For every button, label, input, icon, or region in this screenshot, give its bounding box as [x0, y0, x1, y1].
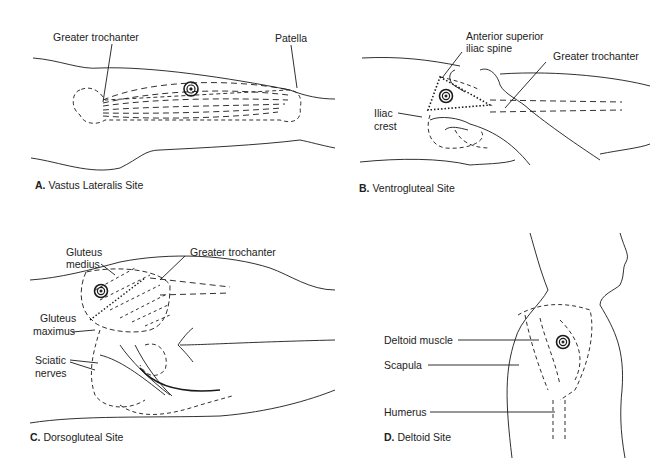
caption-c: C. Dorsogluteal Site [30, 431, 123, 443]
caption-b: B. Ventrogluteal Site [359, 182, 455, 194]
label-iliac: Iliac [374, 107, 393, 119]
label-greater-trochanter-b: Greater trochanter [553, 50, 639, 62]
label-anterior-superior: Anterior superior [466, 30, 544, 42]
caption-d: D. Deltoid Site [384, 431, 451, 443]
caption-a: A. Vastus Lateralis Site [35, 179, 143, 191]
label-sciatic: Sciatic [35, 354, 66, 366]
panel-d-drawing [428, 233, 627, 458]
label-deltoid-muscle: Deltoid muscle [384, 334, 453, 346]
panel-b-drawing [360, 52, 650, 165]
label-nerves: nerves [35, 367, 67, 379]
label-patella: Patella [275, 32, 307, 44]
label-iliac-spine: iliac spine [466, 42, 512, 54]
anatomy-illustration [0, 0, 670, 458]
label-crest: crest [374, 120, 397, 132]
label-greater-trochanter-c: Greater trochanter [190, 246, 276, 258]
label-gluteus-medius-1: Gluteus [66, 246, 102, 258]
label-scapula: Scapula [384, 359, 422, 371]
panel-c-drawing [30, 256, 335, 423]
label-humerus: Humerus [384, 406, 427, 418]
label-gluteus-maximus-2: maximus [33, 325, 75, 337]
label-gluteus-medius-2: medius [66, 258, 100, 270]
label-greater-trochanter-a: Greater trochanter [53, 31, 139, 43]
label-gluteus-maximus-1: Gluteus [40, 312, 76, 324]
panel-a-drawing [31, 44, 335, 170]
